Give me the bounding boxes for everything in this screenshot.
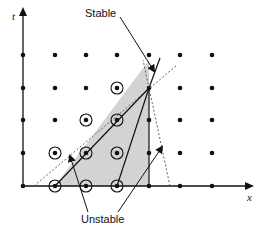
grid-dot bbox=[178, 53, 183, 58]
grid-dot bbox=[53, 86, 58, 91]
grid-dot bbox=[210, 118, 215, 123]
x-axis-arrow-icon bbox=[245, 182, 254, 190]
stable-arrow bbox=[120, 17, 154, 71]
t-axis-arrow-icon bbox=[19, 7, 27, 16]
grid-dot bbox=[115, 151, 120, 156]
grid-dot bbox=[84, 53, 89, 58]
stable-label: Stable bbox=[85, 7, 116, 19]
grid-dot bbox=[210, 53, 215, 58]
grid-dot bbox=[115, 86, 120, 91]
stable-characteristic bbox=[149, 58, 160, 88]
t-axis-label: t bbox=[12, 10, 16, 22]
grid-dot bbox=[84, 118, 89, 123]
grid-dot bbox=[147, 53, 152, 58]
grid-dot bbox=[53, 151, 58, 156]
grid-dot bbox=[210, 86, 215, 91]
grid-dot bbox=[84, 86, 89, 91]
unstable-label: Unstable bbox=[81, 213, 124, 225]
grid-dot bbox=[178, 86, 183, 91]
grid-dot bbox=[210, 151, 215, 156]
grid-dot bbox=[178, 151, 183, 156]
stability-diagram: t x Stable Unstable bbox=[0, 0, 268, 237]
grid-dot bbox=[115, 53, 120, 58]
x-axis-label: x bbox=[246, 191, 252, 203]
grid-dot bbox=[53, 53, 58, 58]
grid-dot bbox=[53, 118, 58, 123]
shaded-region bbox=[55, 60, 149, 186]
grid-dot bbox=[178, 118, 183, 123]
